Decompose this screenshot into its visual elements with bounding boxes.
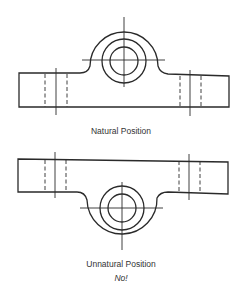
unnatural-position-note: No! [0, 273, 242, 283]
unnatural-view [18, 152, 228, 250]
natural-position-caption: Natural Position [0, 126, 242, 136]
base-outline [18, 159, 228, 234]
natural-position-drawing [0, 0, 242, 300]
natural-view [19, 17, 229, 116]
unnatural-position-caption: Unnatural Position [0, 259, 242, 269]
